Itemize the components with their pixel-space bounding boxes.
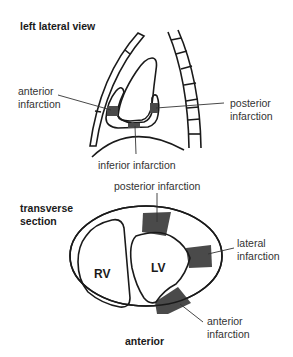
label-posterior-lateral-1: posterior	[230, 97, 271, 109]
label-anterior-transverse-1: anterior	[207, 315, 243, 327]
label-lateral-transverse-1: lateral	[237, 237, 266, 249]
label-anterior-lateral-2: infarction	[18, 98, 61, 110]
rv-label: RV	[94, 267, 110, 281]
lateral-inferior-infarct	[128, 123, 140, 128]
lv-label: LV	[151, 261, 165, 275]
lateral-anterior-infarct	[107, 106, 118, 116]
orientation-anterior: anterior	[125, 335, 164, 347]
leader-anterior-transverse	[180, 304, 203, 322]
transverse-title-1: transverse	[20, 202, 73, 214]
infarction-diagram: left lateral view	[0, 0, 293, 357]
label-anterior-lateral-1: anterior	[18, 85, 54, 97]
label-posterior-lateral-2: infarction	[230, 110, 273, 122]
lateral-view: left lateral view	[18, 20, 273, 171]
transverse-section: transverse section RV LV posterior infar…	[20, 180, 280, 347]
label-inferior-lateral: inferior infarction	[98, 159, 176, 171]
diaphragm	[92, 137, 184, 157]
rv-cavity	[78, 220, 130, 307]
label-posterior-transverse: posterior infarction	[114, 180, 201, 192]
leader-anterior-lateral	[58, 95, 111, 110]
label-lateral-transverse-2: infarction	[237, 250, 280, 262]
transverse-title-2: section	[20, 215, 57, 227]
spine	[168, 30, 201, 148]
label-anterior-transverse-2: infarction	[207, 328, 250, 340]
leader-inferior-lateral	[135, 126, 136, 154]
transverse-anterior-infarct	[155, 287, 191, 314]
lateral-view-title: left lateral view	[20, 20, 96, 32]
